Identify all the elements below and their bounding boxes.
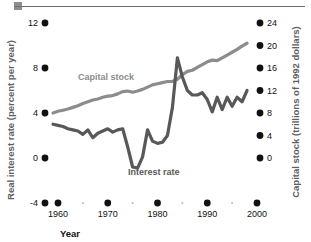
left-tick-dot — [42, 65, 49, 72]
left-tick-label: 0 — [33, 153, 38, 163]
x-tick-label: 2000 — [247, 209, 267, 219]
x-minor-tick-dot — [181, 202, 183, 204]
x-tick-dot — [154, 200, 161, 207]
x-tick-label: 1970 — [98, 209, 118, 219]
x-minor-tick-dot — [82, 202, 84, 204]
left-tick-dot — [42, 155, 49, 162]
line-chart: -404812 04812162024 19601970198019902000… — [0, 0, 311, 242]
x-minor-tick-dot — [132, 202, 134, 204]
right-tick-dot — [257, 132, 264, 139]
x-minor-tick-dot — [231, 202, 233, 204]
left-tick-dot — [42, 200, 49, 207]
right-tick-dot — [257, 87, 264, 94]
x-axis-ticks: 19601970198019902000 — [48, 200, 267, 219]
figure-container: -404812 04812162024 19601970198019902000… — [0, 0, 311, 242]
left-tick-label: 12 — [28, 18, 38, 28]
right-axis-ticks: 04812162024 — [257, 18, 277, 163]
right-tick-label: 0 — [267, 153, 272, 163]
right-tick-label: 20 — [267, 41, 277, 51]
right-tick-dot — [257, 65, 264, 72]
left-tick-label: 8 — [33, 63, 38, 73]
left-tick-dot — [42, 20, 49, 27]
x-tick-label: 1990 — [197, 209, 217, 219]
x-tick-dot — [254, 200, 261, 207]
y-axis-title: Real interest rate (percent per year) — [5, 40, 16, 200]
x-tick-label: 1960 — [48, 209, 68, 219]
series-label-capital-stock: Capital stock — [78, 72, 135, 82]
left-axis-ticks: -404812 — [28, 18, 48, 208]
series-label-interest-rate: Interest rate — [128, 167, 180, 177]
right-tick-dot — [257, 110, 264, 117]
right-tick-dot — [257, 155, 264, 162]
right-tick-label: 8 — [267, 108, 272, 118]
right-tick-dot — [257, 20, 264, 27]
right-tick-label: 12 — [267, 86, 277, 96]
right-tick-dot — [257, 42, 264, 49]
x-tick-dot — [55, 200, 62, 207]
right-tick-label: 24 — [267, 18, 277, 28]
x-tick-label: 1980 — [147, 209, 167, 219]
right-tick-label: 4 — [267, 131, 272, 141]
y2-axis-title: Capital stock (trillions of 1992 dollars… — [290, 26, 301, 198]
right-tick-label: 16 — [267, 63, 277, 73]
left-tick-label: 4 — [33, 108, 38, 118]
x-axis-title: Year — [60, 228, 80, 239]
left-tick-dot — [42, 110, 49, 117]
left-tick-label: -4 — [30, 198, 38, 208]
x-tick-dot — [104, 200, 111, 207]
x-tick-dot — [204, 200, 211, 207]
